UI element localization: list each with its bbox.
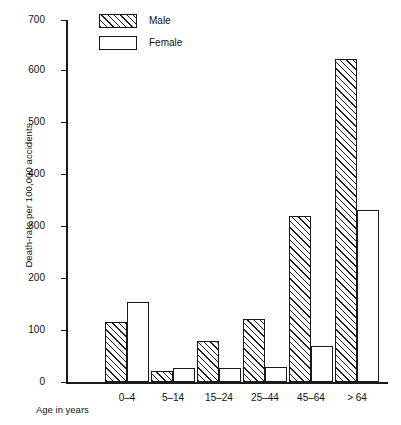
y-tick-label-700: 700 xyxy=(5,15,45,25)
y-tick-100 xyxy=(61,330,66,331)
y-tick-label-100: 100 xyxy=(5,325,45,335)
legend: Male Female xyxy=(99,12,219,56)
bar-male-2 xyxy=(197,341,219,382)
bar-male-4 xyxy=(289,216,311,383)
y-tick-label-0: 0 xyxy=(5,377,45,387)
x-tick-label-5: > 64 xyxy=(320,392,394,403)
bar-male-3 xyxy=(243,319,265,382)
legend-item-female: Female xyxy=(99,34,219,56)
bar-female-4 xyxy=(311,346,333,382)
y-tick-400 xyxy=(61,174,66,175)
x-axis-label: Age in years xyxy=(36,404,89,415)
legend-label-male: Male xyxy=(149,14,171,28)
bar-male-5 xyxy=(335,59,357,382)
y-tick-label-400: 400 xyxy=(5,169,45,179)
x-axis-line xyxy=(66,382,388,384)
bar-female-1 xyxy=(173,368,195,383)
legend-label-female: Female xyxy=(149,36,182,50)
legend-swatch-male-icon xyxy=(99,14,137,28)
y-axis-line xyxy=(66,20,68,384)
bar-male-1 xyxy=(151,371,173,382)
y-tick-200 xyxy=(61,278,66,279)
bar-female-3 xyxy=(265,367,287,383)
legend-item-male: Male xyxy=(99,12,219,34)
bar-chart: Death-rate per 100,000 accidents 0 100 2… xyxy=(0,0,401,425)
bar-female-2 xyxy=(219,368,241,383)
y-tick-label-600: 600 xyxy=(5,65,45,75)
bar-male-0 xyxy=(105,322,127,383)
legend-swatch-female-icon xyxy=(99,36,137,50)
bar-female-5 xyxy=(357,210,379,382)
plot-area: 0 100 200 300 400 500 600 700 0–4 5–14 1… xyxy=(66,20,388,384)
y-tick-300 xyxy=(61,226,66,227)
y-tick-600 xyxy=(61,70,66,71)
y-tick-label-200: 200 xyxy=(5,273,45,283)
y-tick-label-300: 300 xyxy=(5,221,45,231)
y-tick-label-500: 500 xyxy=(5,117,45,127)
y-tick-500 xyxy=(61,122,66,123)
y-tick-0 xyxy=(61,382,66,383)
bar-female-0 xyxy=(127,302,149,382)
y-tick-700 xyxy=(61,20,66,21)
